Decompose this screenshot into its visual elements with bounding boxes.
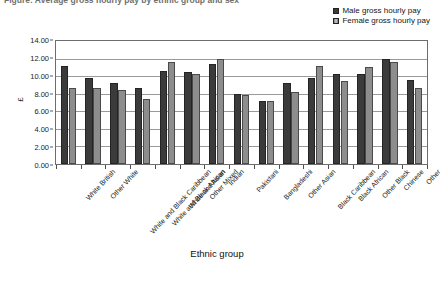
- bar-female: [316, 66, 323, 164]
- legend-swatch-male-icon: [333, 8, 339, 14]
- y-axis-tick-mark: [50, 93, 53, 94]
- x-axis-category-label: White and Black Caribbean: [149, 168, 212, 235]
- y-axis-tick-label: 2.00: [34, 143, 49, 152]
- y-axis-tick-mark: [50, 57, 53, 58]
- y-axis-tick-mark: [50, 75, 53, 76]
- bar-group: [130, 41, 155, 164]
- x-axis-category-labels: White BritishOther WhiteWhite and Black …: [0, 168, 434, 240]
- bar-female: [242, 95, 249, 164]
- bar-group: [254, 41, 279, 164]
- legend-label-male: Male gross hourly pay: [342, 6, 420, 16]
- y-axis-tick-label: 10.00: [30, 71, 49, 80]
- bar-group: [279, 41, 304, 164]
- bar-series-layer: [56, 41, 427, 164]
- bar-group: [105, 41, 130, 164]
- legend-swatch-female-icon: [333, 18, 339, 24]
- bar-male: [135, 88, 142, 164]
- bar-female: [390, 62, 397, 164]
- x-axis-category-label: Pakistani: [255, 168, 279, 194]
- bar-male: [234, 94, 241, 164]
- bar-female: [291, 92, 298, 164]
- bar-female: [168, 62, 175, 164]
- bar-male: [61, 66, 68, 164]
- y-axis-tick-mark: [50, 165, 53, 166]
- bar-female: [69, 88, 76, 164]
- bar-male: [333, 74, 340, 164]
- bar-male: [259, 101, 266, 164]
- y-axis-tick-mark: [50, 147, 53, 148]
- bar-male: [209, 64, 216, 164]
- bar-female: [143, 99, 150, 164]
- bar-group: [402, 41, 427, 164]
- y-axis-tick-label: 12.00: [30, 53, 49, 62]
- bar-group: [204, 41, 229, 164]
- bar-group: [353, 41, 378, 164]
- y-axis-tick-label: 6.00: [34, 107, 49, 116]
- legend-item-female: Female gross hourly pay: [333, 16, 430, 26]
- bar-group: [56, 41, 81, 164]
- figure-title-text: Figure: Average gross hourly pay by ethn…: [0, 0, 434, 5]
- bar-group: [155, 41, 180, 164]
- bar-female: [267, 101, 274, 164]
- y-axis-tick-mark: [50, 111, 53, 112]
- bar-group: [81, 41, 106, 164]
- bar-female: [217, 59, 224, 164]
- bar-female: [341, 81, 348, 164]
- y-axis-tick-mark: [50, 129, 53, 130]
- x-axis-title: Ethnic group: [0, 248, 434, 259]
- bar-male: [407, 80, 414, 164]
- bar-female: [365, 67, 372, 164]
- bar-female: [118, 90, 125, 164]
- bar-female: [192, 74, 199, 164]
- bar-male: [382, 59, 389, 164]
- bar-group: [378, 41, 403, 164]
- y-axis-tick-label: 4.00: [34, 125, 49, 134]
- bar-group: [229, 41, 254, 164]
- y-axis-tick-label: 8.00: [34, 89, 49, 98]
- bar-female: [93, 88, 100, 164]
- bar-male: [283, 83, 290, 164]
- figure-title-clipped: Figure: Average gross hourly pay by ethn…: [0, 0, 434, 5]
- y-axis-tick-label: 14.00: [30, 36, 49, 45]
- x-axis-category-label: Indian: [227, 168, 245, 187]
- legend-label-female: Female gross hourly pay: [342, 16, 430, 26]
- bar-male: [85, 78, 92, 164]
- bar-male: [110, 83, 117, 164]
- bar-female: [415, 88, 422, 164]
- y-axis-labels: 0.002.004.006.008.0010.0012.0014.00: [0, 40, 53, 165]
- y-axis-tick-mark: [50, 40, 53, 41]
- bar-group: [303, 41, 328, 164]
- x-axis-category-label: Other: [424, 168, 441, 186]
- bar-male: [357, 74, 364, 164]
- bar-male: [184, 72, 191, 164]
- bar-male: [160, 71, 167, 164]
- bar-male: [308, 78, 315, 164]
- chart-legend: Male gross hourly pay Female gross hourl…: [333, 6, 430, 26]
- bar-group: [180, 41, 205, 164]
- legend-item-male: Male gross hourly pay: [333, 6, 430, 16]
- bar-group: [328, 41, 353, 164]
